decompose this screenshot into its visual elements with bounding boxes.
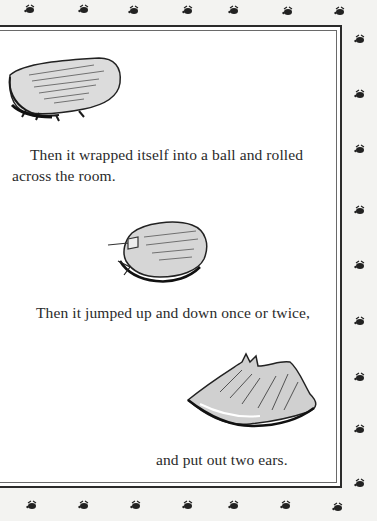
bee-icon	[354, 144, 366, 154]
bee-icon	[24, 4, 36, 14]
bee-icon	[78, 4, 90, 14]
bee-icon	[182, 5, 194, 15]
paragraph-3-line-1: and put out two ears.	[156, 451, 288, 469]
bee-icon	[354, 372, 366, 382]
bee-icon	[128, 5, 140, 15]
bee-icon	[354, 478, 366, 488]
bee-icon	[354, 316, 366, 326]
bee-icon	[182, 500, 194, 510]
paragraph-2-line-1: Then it jumped up and down once or twice…	[36, 304, 310, 322]
bee-icon	[282, 6, 294, 16]
bee-icon	[354, 424, 366, 434]
creature-with-ears-illustration	[180, 352, 325, 432]
bee-icon	[130, 500, 142, 510]
bee-icon	[332, 502, 344, 512]
rolled-ball-illustration	[104, 215, 214, 285]
paragraph-1-line-2: across the room.	[12, 167, 116, 185]
storybook-page: Then it wrapped itself into a ball and r…	[0, 0, 377, 521]
bee-icon	[228, 500, 240, 510]
crumpled-cloth-illustration	[4, 55, 124, 125]
paragraph-1-line-1: Then it wrapped itself into a ball and r…	[30, 146, 303, 164]
bee-icon	[354, 205, 366, 215]
bee-icon	[354, 260, 366, 270]
bee-icon	[26, 500, 38, 510]
bee-icon	[78, 500, 90, 510]
bee-icon	[280, 500, 292, 510]
bee-icon	[228, 5, 240, 15]
bee-icon	[334, 6, 346, 16]
bee-icon	[354, 89, 366, 99]
bee-icon	[354, 34, 366, 44]
